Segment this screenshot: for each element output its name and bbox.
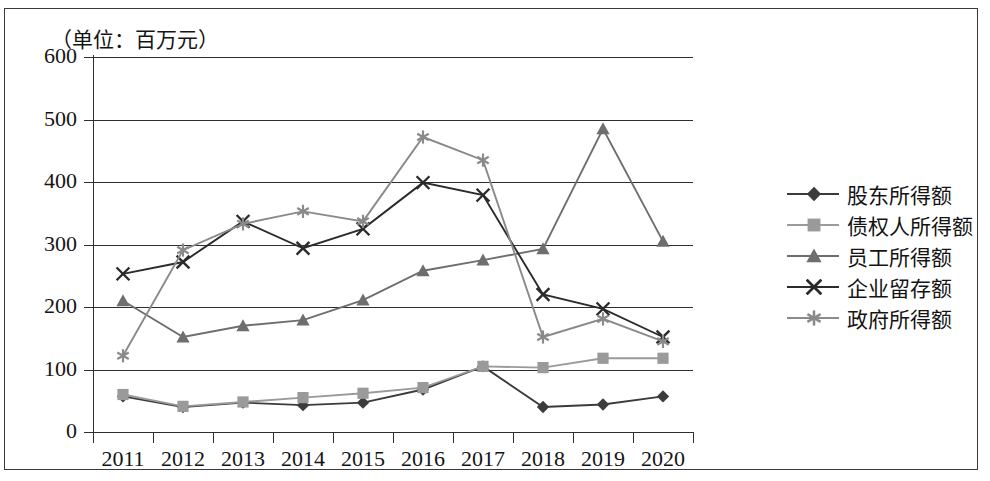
- asterisk-marker: [806, 310, 822, 326]
- triangle-marker: [656, 235, 669, 247]
- asterisk-marker: [117, 349, 128, 362]
- square-marker: [806, 217, 822, 233]
- square-marker: [297, 392, 308, 403]
- cross-marker: [806, 279, 822, 295]
- legend-label: 企业留存额: [847, 272, 952, 302]
- legend-label: 股东所得额: [847, 179, 952, 209]
- legend-key: [787, 246, 839, 266]
- cross-marker: [297, 242, 310, 255]
- square-marker: [177, 401, 188, 412]
- diamond-marker: [657, 390, 669, 402]
- diamond-marker: [597, 398, 609, 410]
- legend-item[interactable]: 股东所得额: [787, 178, 967, 209]
- diamond-marker: [806, 186, 822, 202]
- legend-label: 政府所得额: [847, 303, 952, 333]
- series-line: [123, 358, 663, 406]
- legend-key: [787, 215, 839, 235]
- triangle-marker: [536, 242, 549, 254]
- legend-item[interactable]: 政府所得额: [787, 302, 967, 333]
- legend-key: [787, 277, 839, 297]
- legend-label: 债权人所得额: [847, 210, 973, 240]
- diamond-marker: [537, 401, 549, 413]
- triangle-marker: [806, 248, 822, 264]
- series-line: [123, 366, 663, 407]
- diamond-marker: [807, 186, 821, 200]
- asterisk-marker: [177, 244, 188, 257]
- square-marker: [808, 218, 821, 231]
- square-marker: [537, 362, 548, 373]
- series-asterisk: [117, 130, 668, 362]
- legend-key: [787, 308, 839, 328]
- legend-key: [787, 184, 839, 204]
- legend-label: 员工所得额: [847, 241, 952, 271]
- triangle-marker: [806, 248, 821, 262]
- legend-item[interactable]: 债权人所得额: [787, 209, 967, 240]
- series-cross: [117, 176, 670, 343]
- triangle-marker: [116, 294, 129, 306]
- asterisk-marker: [537, 330, 548, 343]
- square-marker: [237, 396, 248, 407]
- square-marker: [477, 361, 488, 372]
- square-marker: [117, 389, 128, 400]
- series-square: [117, 353, 668, 412]
- legend-item[interactable]: 企业留存额: [787, 271, 967, 302]
- series-triangle: [116, 122, 669, 342]
- triangle-marker: [596, 122, 609, 134]
- square-marker: [357, 388, 368, 399]
- series-line: [123, 183, 663, 337]
- square-marker: [597, 353, 608, 364]
- cross-marker: [537, 288, 550, 301]
- asterisk-marker: [807, 310, 820, 325]
- square-marker: [657, 353, 668, 364]
- legend-item[interactable]: 员工所得额: [787, 240, 967, 271]
- series-line: [123, 129, 663, 337]
- asterisk-marker: [477, 154, 488, 167]
- cross-marker: [807, 279, 822, 294]
- chart-legend: 股东所得额债权人所得额员工所得额企业留存额政府所得额: [787, 178, 967, 333]
- triangle-marker: [356, 294, 369, 306]
- square-marker: [417, 382, 428, 393]
